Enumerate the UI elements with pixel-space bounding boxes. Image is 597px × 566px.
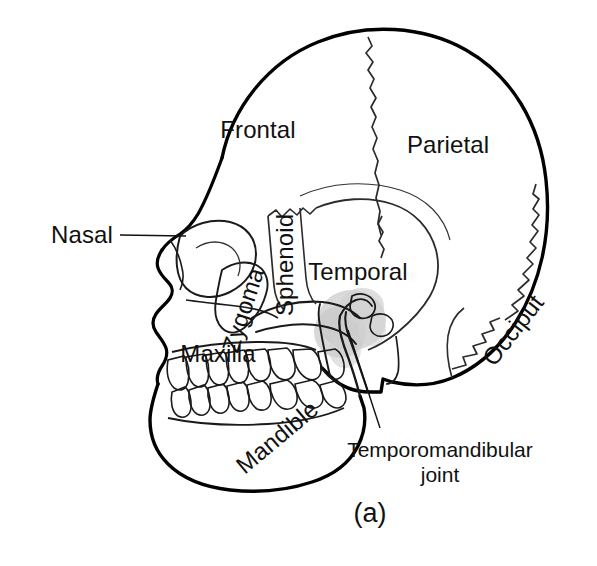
figure-caption: (a) (354, 498, 387, 529)
nasal-leader-line (120, 235, 186, 236)
tmj-label-line1: Temporomandibular (347, 438, 533, 463)
tmj-label-line2: joint (347, 463, 533, 488)
label-frontal: Frontal (220, 117, 295, 142)
label-temporal: Temporal (308, 259, 408, 284)
skull-anatomy-figure: Nasal Frontal Parietal Temporal Maxilla … (0, 0, 597, 566)
nasal-maxilla-profile (153, 250, 172, 384)
mastoid-process (386, 336, 399, 384)
label-parietal: Parietal (407, 132, 489, 157)
label-sphenoid: Sphenoid (272, 214, 297, 316)
coronal-suture (366, 37, 381, 235)
label-nasal: Nasal (51, 222, 113, 247)
coronal-suture-lower (378, 216, 384, 258)
orbit-inner-detail (196, 242, 240, 276)
sphenoid-greater-wing (300, 208, 316, 304)
label-temporomandibular-joint: Temporomandibular joint (347, 438, 533, 488)
